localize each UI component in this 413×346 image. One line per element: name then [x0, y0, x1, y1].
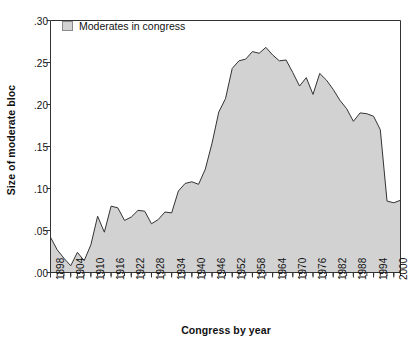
- chart-legend: Moderates in congress: [62, 20, 185, 32]
- x-axis-tick-label: 1934: [176, 257, 187, 279]
- x-axis-tick-label: 1928: [155, 257, 166, 279]
- chart-figure: Size of moderate bloc .00.05.10.15.20.25…: [0, 0, 413, 346]
- x-axis-tick-label: 2000: [398, 257, 409, 279]
- legend-label-moderates: Moderates in congress: [79, 20, 185, 32]
- x-axis-tick-label: 1958: [256, 257, 267, 279]
- x-axis-tick-label: 1988: [357, 257, 368, 279]
- x-axis-tick-label: 1994: [378, 257, 389, 279]
- x-axis-tick-label: 1898: [55, 257, 66, 279]
- x-axis-tick-label: 1904: [75, 257, 86, 279]
- x-axis-tick-label: 1910: [95, 257, 106, 279]
- x-axis-tick-label: 1946: [216, 257, 227, 279]
- x-axis-tick-label: 1922: [135, 257, 146, 279]
- x-axis-tick-label: 1952: [236, 257, 247, 279]
- x-axis-title-text: Congress by year: [181, 324, 271, 336]
- x-axis-tick-labels: 1898190419101916192219281934194019461952…: [0, 0, 413, 346]
- x-axis-tick-label: 1964: [277, 257, 288, 279]
- x-axis-tick-label: 1916: [115, 257, 126, 279]
- x-axis-title: Congress by year: [50, 320, 402, 338]
- x-axis-tick-label: 1982: [337, 257, 348, 279]
- x-axis-tick-label: 1976: [317, 257, 328, 279]
- legend-swatch-moderates: [62, 21, 73, 31]
- x-axis-tick-label: 1970: [297, 257, 308, 279]
- x-axis-tick-label: 1940: [196, 257, 207, 279]
